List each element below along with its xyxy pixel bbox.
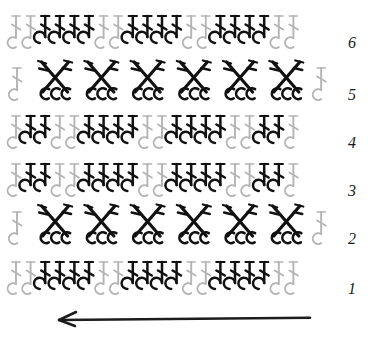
row-number-label: 4	[348, 134, 356, 151]
row-number-label: 5	[348, 86, 356, 103]
crochet-chart: 654321	[0, 0, 381, 339]
row-number-label: 2	[348, 230, 356, 247]
row-number-label: 1	[348, 280, 356, 297]
chart-canvas: 654321	[0, 0, 381, 339]
row-number-label: 6	[348, 34, 356, 51]
row-number-label: 3	[347, 182, 356, 199]
